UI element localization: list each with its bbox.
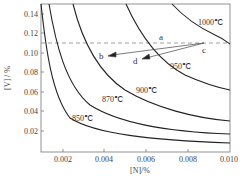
x-tick-label: 0.010 (220, 155, 238, 164)
arrow-head-d (142, 54, 150, 59)
x-tick-label: 0.008 (179, 155, 197, 164)
x-tick-label: 0.004 (95, 155, 113, 164)
x-tick-label: 0.002 (54, 155, 72, 164)
y-tick-label: 0.10 (24, 49, 38, 58)
y-tick-label: 0.06 (24, 88, 38, 97)
curve-label-950: 950℃ (170, 62, 191, 71)
y-tick-label: 0.12 (24, 29, 38, 38)
arrow-c-to-b (112, 43, 204, 55)
x-tick-label: 0.006 (137, 155, 155, 164)
y-tick-labels: 0.14 0.12 0.10 0.08 0.06 0.04 0.02 (24, 10, 38, 136)
y-tick-label: 0.14 (24, 10, 38, 19)
y-axis-label: [V] / % (3, 66, 12, 90)
curve-label-870: 870℃ (102, 95, 123, 104)
curve-label-850: 850℃ (72, 114, 93, 123)
arrows (108, 43, 204, 59)
point-label-b: b (99, 51, 104, 61)
point-label-d: d (133, 56, 138, 66)
curve-label-900: 900℃ (136, 86, 157, 95)
y-axis (41, 14, 44, 131)
point-label-c: c (202, 45, 206, 55)
y-tick-label: 0.08 (24, 68, 38, 77)
x-axis-label: [N]/% (130, 166, 150, 175)
y-tick-label: 0.02 (24, 127, 38, 136)
point-label-a: a (159, 32, 163, 42)
x-tick-labels: 0.002 0.004 0.006 0.008 0.010 (54, 155, 238, 164)
curve-950 (126, 4, 230, 90)
chart: 0.14 0.12 0.10 0.08 0.06 0.04 0.02 0.002… (0, 0, 244, 180)
x-axis (63, 149, 188, 152)
arrow-head-b (108, 52, 116, 57)
curve-label-1000: 1000℃ (198, 18, 223, 27)
y-tick-label: 0.04 (24, 107, 38, 116)
